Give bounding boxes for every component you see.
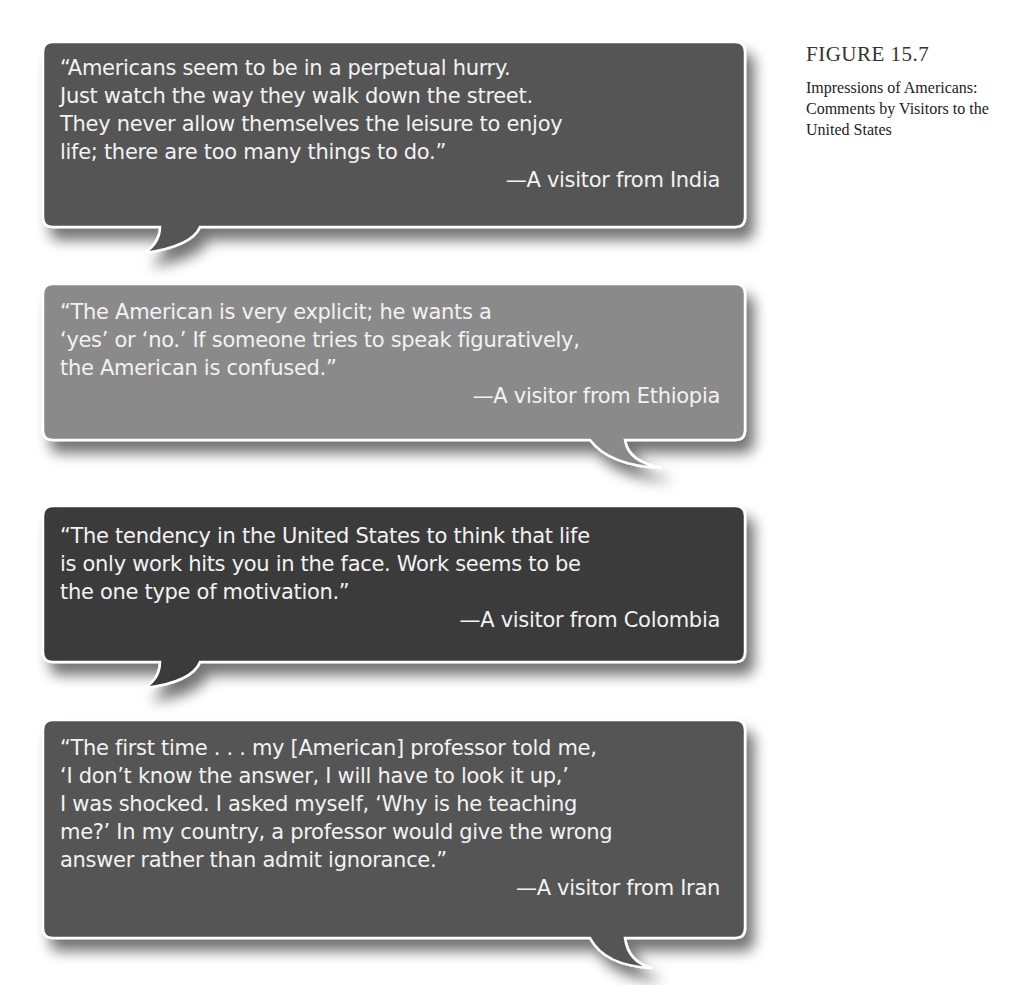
figure-label: FIGURE 15.7: [806, 42, 1016, 67]
figure-title: Impressions of Americans: Comments by Vi…: [806, 77, 1016, 140]
quote-line: I was shocked. I asked myself, ‘Why is h…: [60, 790, 720, 818]
quote-line: me?’ In my country, a professor would gi…: [60, 818, 720, 846]
quote-line: answer rather than admit ignorance.”: [60, 846, 720, 874]
quote-attribution: —A visitor from Iran: [60, 874, 720, 902]
quote-line: “The first time . . . my [American] prof…: [60, 734, 720, 762]
figure-caption: FIGURE 15.7 Impressions of Americans: Co…: [806, 42, 1016, 140]
quote-line: ‘I don’t know the answer, I will have to…: [60, 762, 720, 790]
